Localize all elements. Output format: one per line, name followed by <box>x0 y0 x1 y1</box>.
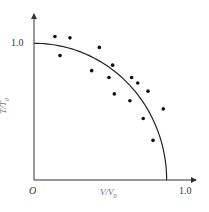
data-points <box>53 35 165 142</box>
data-point <box>130 76 134 80</box>
x-tick-label: 1.0 <box>179 185 192 196</box>
data-point <box>111 63 115 67</box>
data-point <box>151 139 155 143</box>
data-point <box>98 46 102 50</box>
y-axis-label-main: T/T <box>0 101 8 114</box>
y-axis-label: T/T0 <box>0 98 10 114</box>
data-point <box>113 92 117 96</box>
data-point <box>58 54 62 58</box>
data-point <box>146 89 150 93</box>
data-point <box>53 35 57 39</box>
data-point <box>161 107 165 111</box>
data-point <box>68 36 72 40</box>
data-point <box>107 76 111 80</box>
data-point <box>128 99 132 103</box>
fit-curve <box>34 43 166 180</box>
x-axis-label-sub: 0 <box>114 193 117 199</box>
data-point <box>141 117 145 121</box>
y-axis-label-sub: 0 <box>4 98 10 101</box>
x-axis-label-main: V/V <box>100 187 114 197</box>
scatter-chart <box>0 0 209 212</box>
y-tick-label: 1.0 <box>11 37 24 48</box>
origin-label: O <box>29 185 36 196</box>
data-point <box>136 81 140 85</box>
data-point <box>90 69 94 73</box>
x-axis-label: V/V0 <box>100 187 117 199</box>
